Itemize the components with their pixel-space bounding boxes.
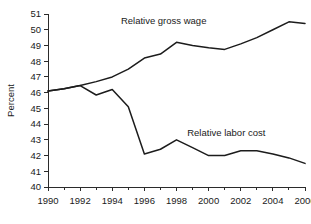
y-axis-tick-label: 44 <box>30 118 41 129</box>
x-axis-tick-label: 2006 <box>294 195 311 206</box>
x-axis-tick-label: 1994 <box>102 195 123 206</box>
y-axis-tick-label: 49 <box>30 40 41 51</box>
series-line-2 <box>48 86 305 164</box>
y-axis-tick-label: 40 <box>30 181 41 192</box>
chart-container: 4041424344454647484950511990199219941996… <box>0 0 311 224</box>
line-chart: 4041424344454647484950511990199219941996… <box>0 0 311 224</box>
y-axis-tick-label: 48 <box>30 56 41 67</box>
y-axis-tick-label: 46 <box>30 87 41 98</box>
y-axis-tick-label: 45 <box>30 103 41 114</box>
y-axis-tick-label: 51 <box>30 8 41 19</box>
x-axis-tick-label: 2004 <box>262 195 283 206</box>
x-axis-tick-label: 2002 <box>230 195 251 206</box>
y-axis-tick-label: 43 <box>30 134 41 145</box>
x-axis-tick-label: 1998 <box>166 195 187 206</box>
series-label-2: Relative labor cost <box>187 127 266 138</box>
series-label-1: Relative gross wage <box>121 15 207 26</box>
x-axis-tick-label: 2000 <box>198 195 219 206</box>
y-axis-tick-label: 47 <box>30 71 41 82</box>
y-axis-title: Percent <box>5 84 16 117</box>
y-axis-tick-label: 42 <box>30 150 41 161</box>
y-axis-tick-label: 41 <box>30 166 41 177</box>
x-axis-tick-label: 1992 <box>70 195 91 206</box>
y-axis-tick-label: 50 <box>30 24 41 35</box>
series-line-1 <box>48 22 305 91</box>
x-axis-tick-label: 1996 <box>134 195 155 206</box>
x-axis-tick-label: 1990 <box>37 195 58 206</box>
